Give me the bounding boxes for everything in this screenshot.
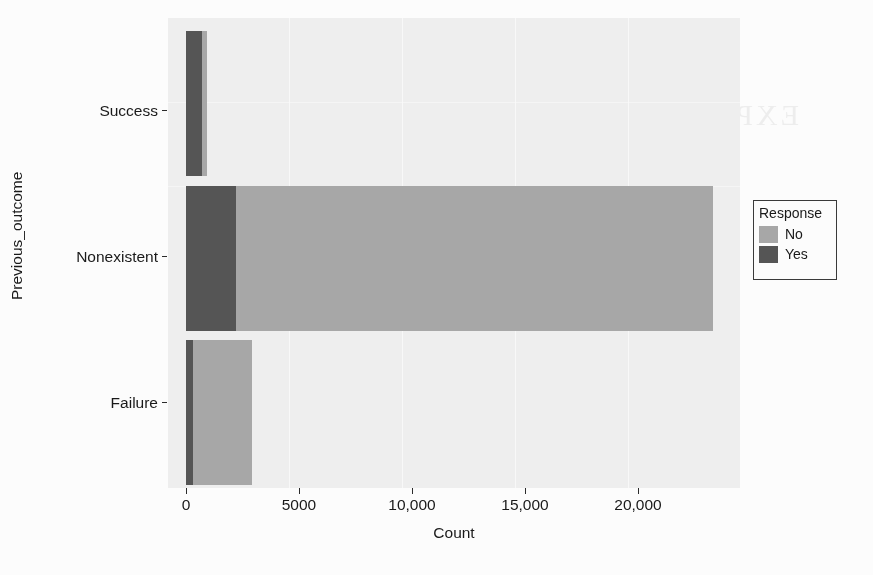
x-tick-label-20000: 20,000: [593, 496, 683, 514]
legend-label-no: No: [785, 226, 803, 242]
stacked-bar-chart: Previous_outcome Success Nonexistent Fai…: [0, 0, 873, 575]
x-tick-label-10000: 10,000: [367, 496, 457, 514]
x-tick-label-0: 0: [141, 496, 231, 514]
legend-item-yes[interactable]: Yes: [759, 244, 836, 264]
bar-segment-nonexistent-no[interactable]: [236, 186, 713, 331]
legend-title: Response: [759, 205, 836, 221]
legend-item-no[interactable]: No: [759, 224, 836, 244]
y-tick-mark-success: [162, 110, 167, 111]
y-tick-label-failure: Failure: [28, 394, 158, 412]
bar-segment-nonexistent-yes[interactable]: [186, 186, 236, 331]
legend-label-yes: Yes: [785, 246, 808, 262]
legend-swatch-no: [759, 226, 778, 243]
bar-segment-success-yes[interactable]: [186, 31, 202, 176]
x-tick-mark-10000: [412, 488, 413, 494]
x-tick-mark-20000: [638, 488, 639, 494]
x-tick-mark-0: [186, 488, 187, 494]
x-tick-mark-15000: [525, 488, 526, 494]
x-tick-mark-5000: [299, 488, 300, 494]
y-tick-label-nonexistent: Nonexistent: [28, 248, 158, 266]
x-tick-label-15000: 15,000: [480, 496, 570, 514]
x-axis-title: Count: [168, 524, 740, 542]
legend-swatch-yes: [759, 246, 778, 263]
y-tick-label-success: Success: [28, 102, 158, 120]
plot-panel: [168, 18, 740, 488]
bar-segment-failure-no[interactable]: [193, 340, 252, 485]
legend[interactable]: Response No Yes: [753, 200, 837, 280]
bar-row-nonexistent[interactable]: [186, 186, 713, 331]
bar-segment-success-no[interactable]: [202, 31, 207, 176]
y-axis-title: Previous_outcome: [8, 0, 30, 300]
bar-row-failure[interactable]: [186, 340, 252, 485]
y-tick-mark-failure: [162, 402, 167, 403]
bar-row-success[interactable]: [186, 31, 207, 176]
panel-grid-line: [168, 102, 740, 103]
y-tick-mark-nonexistent: [162, 256, 167, 257]
bar-segment-failure-yes[interactable]: [186, 340, 193, 485]
x-tick-label-5000: 5000: [254, 496, 344, 514]
